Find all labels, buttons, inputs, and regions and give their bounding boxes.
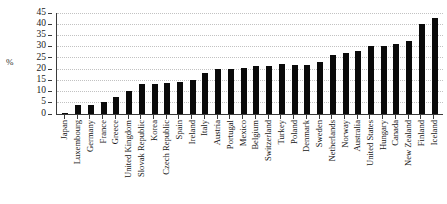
x-axis-tick-mark — [293, 114, 294, 119]
x-axis-tick-mark — [344, 114, 345, 119]
x-label-slot: Belgium — [249, 120, 262, 204]
x-tick-slot — [198, 114, 211, 119]
bar-slot — [199, 13, 212, 114]
x-label-slot: France — [96, 120, 109, 204]
bar — [228, 69, 234, 114]
x-label-slot: Spain — [173, 120, 186, 204]
x-label-slot: Austria — [211, 120, 224, 204]
bar — [317, 62, 323, 114]
bar-slot — [301, 13, 314, 114]
x-tick-slot — [338, 114, 351, 119]
bar-slot — [288, 13, 301, 114]
bar — [152, 84, 158, 113]
x-label-slot: Australia — [351, 120, 364, 204]
x-axis-tick-label: Slovak Republic — [136, 120, 145, 177]
bar-slot — [428, 13, 441, 114]
x-label-slot: Japan — [58, 120, 71, 204]
x-label-slot: Czech Republic — [160, 120, 173, 204]
x-tick-slot — [364, 114, 377, 119]
x-label-slot: Ireland — [185, 120, 198, 204]
x-tick-slot — [96, 114, 109, 119]
x-axis-tick-mark — [229, 114, 230, 119]
x-axis-tick-label: Netherlands — [327, 120, 336, 162]
x-axis-tick-mark — [280, 114, 281, 119]
y-axis-tick-mark — [48, 13, 52, 14]
x-tick-slot — [262, 114, 275, 119]
x-axis-tick-mark — [357, 114, 358, 119]
x-axis-tick-label: United Kingdom — [124, 120, 133, 178]
y-axis-tick-mark — [48, 35, 52, 36]
bar-slot — [135, 13, 148, 114]
x-tick-slot — [71, 114, 84, 119]
y-axis-tick-label: 45 — [37, 8, 47, 18]
bar-slot — [263, 13, 276, 114]
x-axis-tick-label: Finland — [417, 120, 426, 146]
x-axis-tick-label: Luxembourg — [73, 120, 82, 164]
x-axis-tick-label: Austria — [213, 120, 222, 145]
bar — [215, 69, 221, 114]
y-axis-tick-label: 0 — [41, 109, 46, 119]
bar-slot — [339, 13, 352, 114]
bar — [139, 84, 145, 113]
bar — [330, 55, 336, 113]
x-label-slot: Sweden — [313, 120, 326, 204]
x-axis-tick-label: Portugal — [226, 120, 235, 149]
x-axis-tick-mark — [319, 114, 320, 119]
bar-chart: % 454035302520151050 JapanLuxembourgGerm… — [0, 0, 447, 204]
bar — [381, 46, 387, 113]
x-label-slot: Portugal — [224, 120, 237, 204]
x-label-slot: Slovak Republic — [134, 120, 147, 204]
x-axis-tick-label: Greece — [111, 120, 120, 144]
bar — [88, 105, 94, 114]
x-tick-slot — [274, 114, 287, 119]
x-label-slot: United Kingdom — [122, 120, 135, 204]
y-axis-title: % — [6, 58, 14, 67]
x-axis-tick-label: Spain — [175, 120, 184, 140]
bar — [279, 64, 285, 113]
y-axis-tick-mark — [48, 69, 52, 70]
bar — [126, 91, 132, 113]
bar-slot — [123, 13, 136, 114]
x-axis-tick-labels: JapanLuxembourgGermanyFranceGreeceUnited… — [56, 120, 442, 204]
x-label-slot: Finland — [415, 120, 428, 204]
bar-slot — [212, 13, 225, 114]
bar-slot — [97, 13, 110, 114]
x-axis-tick-label: Poland — [289, 120, 298, 144]
x-axis-tick-mark — [408, 114, 409, 119]
bar — [419, 24, 425, 114]
x-label-slot: Mexico — [236, 120, 249, 204]
x-tick-slot — [376, 114, 389, 119]
y-axis-tick-mark — [48, 91, 52, 92]
x-axis-tick-label: Denmark — [302, 120, 311, 152]
bar-slot — [352, 13, 365, 114]
y-axis-tick-mark — [48, 24, 52, 25]
bar-slot — [314, 13, 327, 114]
x-axis-tick-label: Hungary — [378, 120, 387, 150]
x-axis-tick-mark — [204, 114, 205, 119]
x-tick-slot — [313, 114, 326, 119]
bar — [355, 51, 361, 114]
x-tick-slot — [147, 114, 160, 119]
x-tick-slot — [389, 114, 402, 119]
x-axis-tick-mark — [115, 114, 116, 119]
x-label-slot: Turkey — [274, 120, 287, 204]
x-label-slot: Norway — [338, 120, 351, 204]
plot-area — [56, 13, 443, 115]
x-label-slot: Italy — [198, 120, 211, 204]
x-axis-tick-label: New Zealand — [404, 120, 413, 166]
bar — [343, 53, 349, 114]
x-axis-tick-mark — [242, 114, 243, 119]
bar-slot — [110, 13, 123, 114]
y-axis-tick-mark — [48, 102, 52, 103]
x-axis-tick-mark — [382, 114, 383, 119]
y-axis-tick-mark — [48, 46, 52, 47]
x-axis-tick-label: Korea — [149, 120, 158, 141]
x-label-slot: Switzerland — [262, 120, 275, 204]
x-tick-slot — [58, 114, 71, 119]
x-tick-slot — [402, 114, 415, 119]
bar-slot — [365, 13, 378, 114]
x-axis-tick-label: Mexico — [238, 120, 247, 146]
bar — [113, 97, 119, 114]
x-axis-tick-label: Italy — [200, 120, 209, 136]
x-label-slot: Denmark — [300, 120, 313, 204]
